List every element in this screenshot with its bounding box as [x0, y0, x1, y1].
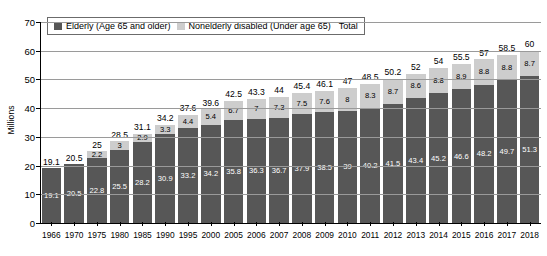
bar-segment-elderly: 28.2 — [133, 142, 153, 223]
x-axis-tick-label: 2006 — [247, 230, 266, 240]
bar-segment-elderly: 30.9 — [155, 134, 175, 223]
y-axis-tick-label: 50 — [11, 74, 35, 85]
bar-label-nonelderly-disabled: 8.7 — [383, 88, 403, 96]
bar-segment-elderly: 36.7 — [269, 118, 289, 223]
bar-label-elderly: 48.2 — [474, 150, 494, 158]
bar-segment-nonelderly-disabled: 2.9 — [133, 134, 153, 142]
y-axis-tick-label: 30 — [11, 131, 35, 142]
stacked-bar-chart: Millions 19.119.120.520.522.82.22525.532… — [0, 0, 547, 256]
y-axis-tick-label: 0 — [11, 218, 35, 229]
x-axis-tick-label: 1985 — [133, 230, 152, 240]
bar-label-elderly: 46.6 — [452, 153, 472, 161]
bar-total-label: 31.1 — [127, 123, 159, 132]
x-axis-tick-label: 2012 — [384, 230, 403, 240]
bar-stack: 41.58.750.2 — [383, 79, 403, 223]
bar-segment-elderly: 46.6 — [452, 89, 472, 223]
bar-segment-nonelderly-disabled: 5.4 — [201, 109, 221, 125]
bar-column: 19.119.1 — [42, 22, 62, 223]
bar-label-elderly: 39 — [338, 163, 358, 171]
bar-segment-nonelderly-disabled: 8.8 — [429, 68, 449, 93]
bar-total-label: 39.6 — [195, 99, 227, 108]
y-axis-tick-mark — [36, 223, 40, 224]
bar-total-label: 34.2 — [149, 114, 181, 123]
bar-column: 41.58.750.2 — [383, 22, 403, 223]
bar-label-nonelderly-disabled: 2.9 — [133, 134, 153, 142]
bar-column: 30.93.334.2 — [155, 22, 175, 223]
bar-label-elderly: 19.1 — [42, 192, 62, 200]
bar-total-label: 20.5 — [58, 154, 90, 163]
x-axis-tick-label: 1966 — [42, 230, 61, 240]
bar-label-nonelderly-disabled: 2.2 — [87, 151, 107, 159]
bar-column: 36.3743.3 — [247, 22, 267, 223]
gridline — [40, 51, 541, 52]
bar-label-elderly: 49.7 — [497, 148, 517, 156]
x-axis-tick-label: 2014 — [429, 230, 448, 240]
x-axis-tick-label: 2010 — [338, 230, 357, 240]
bar-label-nonelderly-disabled: 8 — [338, 96, 358, 104]
bar-segment-elderly: 41.5 — [383, 104, 403, 223]
bar-segment-nonelderly-disabled: 7.5 — [292, 93, 312, 115]
bar-label-elderly: 22.8 — [87, 187, 107, 195]
bar-column: 33.24.437.6 — [178, 22, 198, 223]
bar-column: 49.78.858.5 — [497, 22, 517, 223]
bar-segment-nonelderly-disabled: 8.7 — [520, 51, 540, 76]
bar-label-elderly: 30.9 — [155, 175, 175, 183]
bar-total-label: 25 — [81, 141, 113, 150]
bar-stack: 22.82.225 — [87, 151, 107, 223]
bar-column: 34.25.439.6 — [201, 22, 221, 223]
x-axis-tick-label: 2017 — [498, 230, 517, 240]
bar-segment-nonelderly-disabled: 8.9 — [452, 64, 472, 90]
bar-segment-nonelderly-disabled: 3 — [110, 141, 130, 150]
bar-stack: 38.57.646.1 — [315, 91, 335, 223]
bar-stack: 19.119.1 — [42, 168, 62, 223]
bar-label-nonelderly-disabled: 4.4 — [178, 118, 198, 126]
bar-label-nonelderly-disabled: 8.3 — [360, 92, 380, 100]
bar-segment-nonelderly-disabled: 7.3 — [269, 97, 289, 118]
x-axis-tick-label: 2018 — [520, 230, 539, 240]
bar-segment-elderly: 35.8 — [224, 120, 244, 223]
bar-label-elderly: 36.3 — [247, 167, 267, 175]
bar-segment-elderly: 36.3 — [247, 119, 267, 223]
x-axis-tick-label: 1980 — [110, 230, 129, 240]
bar-stack: 46.68.955.5 — [452, 64, 472, 223]
bar-total-label: 60 — [514, 40, 546, 49]
bar-segment-elderly: 22.8 — [87, 158, 107, 223]
bar-segment-elderly: 34.2 — [201, 125, 221, 223]
bar-label-elderly: 33.2 — [178, 172, 198, 180]
bar-label-elderly: 34.2 — [201, 170, 221, 178]
bar-stack: 35.86.742.5 — [224, 101, 244, 223]
bar-column: 22.82.225 — [87, 22, 107, 223]
bar-stack: 45.28.854 — [429, 68, 449, 223]
x-axis-tick-label: 2005 — [224, 230, 243, 240]
bar-segment-nonelderly-disabled: 8.7 — [383, 79, 403, 104]
bar-column: 40.28.348.5 — [360, 22, 380, 223]
x-axis-tick-label: 1990 — [156, 230, 175, 240]
bar-segment-nonelderly-disabled: 4.4 — [178, 115, 198, 128]
bar-column: 51.38.760 — [520, 22, 540, 223]
bar-stack: 37.97.545.4 — [292, 93, 312, 223]
bar-label-elderly: 45.2 — [429, 155, 449, 163]
bar-label-elderly: 43.4 — [406, 157, 426, 165]
y-axis-title: Millions — [6, 85, 16, 155]
bar-segment-elderly: 25.5 — [110, 150, 130, 223]
bar-segment-elderly: 51.3 — [520, 76, 540, 223]
bar-total-label: 28.5 — [104, 131, 136, 140]
bar-segment-nonelderly-disabled: 8.8 — [497, 55, 517, 80]
bar-label-nonelderly-disabled: 8.7 — [520, 60, 540, 68]
x-axis-tick-label: 2009 — [315, 230, 334, 240]
bar-stack: 40.28.348.5 — [360, 84, 380, 223]
gridline — [40, 108, 541, 109]
bar-label-nonelderly-disabled: 8.8 — [474, 68, 494, 76]
bar-segment-elderly: 43.4 — [406, 98, 426, 223]
bar-stack: 48.28.857 — [474, 59, 494, 223]
bar-label-nonelderly-disabled: 3.3 — [155, 126, 175, 134]
x-axis-tick-label: 1975 — [88, 230, 107, 240]
bar-segment-elderly: 19.1 — [42, 168, 62, 223]
bar-segment-nonelderly-disabled: 8.6 — [406, 74, 426, 99]
gridline — [40, 79, 541, 80]
x-axis-tick-label: 2011 — [361, 230, 379, 240]
bar-stack: 43.48.652 — [406, 74, 426, 223]
bar-segment-elderly: 48.2 — [474, 85, 494, 223]
bar-segment-elderly: 38.5 — [315, 112, 335, 223]
bar-segment-nonelderly-disabled: 3.3 — [155, 125, 175, 134]
